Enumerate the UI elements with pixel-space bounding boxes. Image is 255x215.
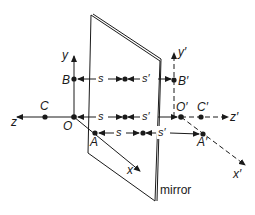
label-z: z	[10, 115, 17, 129]
label-B: B	[62, 73, 70, 87]
label-y: y	[61, 48, 69, 62]
label-y-prime: y′	[177, 45, 187, 59]
point-B	[71, 76, 76, 81]
label-z-prime: z′	[229, 110, 239, 124]
label-A-prime: A′	[196, 135, 208, 149]
label-O: O	[63, 119, 72, 133]
mirror-point-A	[140, 130, 145, 135]
point-C	[42, 114, 47, 119]
point-O-prime	[178, 114, 184, 120]
label-x: x	[126, 163, 134, 177]
label-s-prime-A: s′	[158, 126, 167, 138]
label-x-prime: x′	[232, 167, 242, 181]
label-C-prime: C′	[197, 100, 209, 114]
label-B-prime: B′	[178, 74, 189, 88]
point-B-prime	[171, 77, 176, 82]
label-s-prime-O: s′	[142, 110, 151, 122]
mirror-plane	[88, 14, 161, 201]
diagram-canvas: y z x B C O A y′ z′ x′ B′ O′ C′ A′ s s s…	[0, 0, 255, 215]
label-s-B: s	[98, 72, 104, 84]
point-C-prime	[198, 114, 203, 119]
x-prime-axis	[181, 117, 245, 165]
label-O-prime: O′	[176, 100, 188, 114]
label-mirror: mirror	[160, 183, 191, 197]
label-C: C	[40, 99, 49, 113]
mirror-point-O	[122, 114, 127, 119]
label-s-A: s	[116, 126, 122, 138]
label-s-O: s	[98, 110, 104, 122]
mirror-reflection-diagram: y z x B C O A y′ z′ x′ B′ O′ C′ A′ s s s…	[0, 0, 255, 215]
label-s-prime-B: s′	[142, 72, 151, 84]
label-A: A	[89, 135, 98, 149]
mirror-point-B	[122, 76, 127, 81]
